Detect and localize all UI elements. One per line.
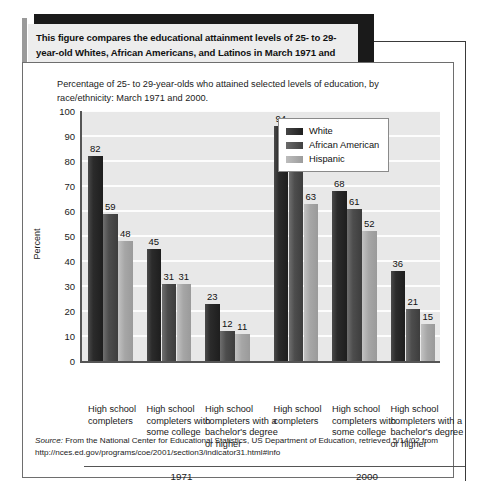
legend-label-hispanic: Hispanic <box>309 154 345 164</box>
year-rule-1971 <box>84 466 279 467</box>
bar-value-hispanic-3: 63 <box>298 191 325 202</box>
legend-item-african-american: African American <box>286 138 379 152</box>
y-tick-20: 20 <box>64 306 75 317</box>
year-rule-2000 <box>270 466 465 467</box>
chart-legend: White African American Hispanic <box>278 118 389 172</box>
y-tick-50: 50 <box>64 231 75 242</box>
bar-white-0 <box>88 156 103 361</box>
legend-swatch-icon-african-american <box>286 142 303 149</box>
legend-item-hispanic: Hispanic <box>286 152 379 166</box>
legend-item-white: White <box>286 124 379 138</box>
source-text: From the National Center for Educational… <box>35 436 438 457</box>
bar-value-white-5: 36 <box>385 258 412 269</box>
callout-banner: This figure compares the educational att… <box>22 14 374 68</box>
bar-african-1 <box>162 284 177 362</box>
legend-swatch-icon-hispanic <box>286 156 303 163</box>
bar-value-white-2: 23 <box>199 291 226 302</box>
bar-hispanic-5 <box>421 324 436 362</box>
legend-swatch-icon-white <box>286 128 303 135</box>
y-tick-30: 30 <box>64 281 75 292</box>
figure-frame: Percentage of 25- to 29-year-olds who at… <box>22 62 454 478</box>
bar-hispanic-0 <box>118 241 133 361</box>
bar-value-white-4: 68 <box>326 178 353 189</box>
bar-value-hispanic-0: 48 <box>112 228 139 239</box>
x-axis-line <box>80 361 440 363</box>
y-axis-ticks: 1009080706050403020100 <box>51 111 79 361</box>
bar-hispanic-4 <box>362 231 377 361</box>
bar-value-hispanic-5: 15 <box>415 311 442 322</box>
y-tick-60: 60 <box>64 206 75 217</box>
legend-label-african-american: African American <box>309 140 379 150</box>
year-label-1971: 1971 <box>84 471 279 482</box>
bar-hispanic-2 <box>235 334 250 362</box>
y-tick-40: 40 <box>64 256 75 267</box>
bar-white-2 <box>205 304 220 362</box>
bracket-horizontal-line <box>374 41 466 42</box>
bar-white-1 <box>147 249 162 362</box>
bar-value-hispanic-2: 11 <box>229 321 256 332</box>
bar-value-african-0: 59 <box>97 201 124 212</box>
source-citation: Source: From the National Center for Edu… <box>35 435 441 459</box>
bar-value-african-5: 21 <box>400 296 427 307</box>
callout-left-accent <box>22 18 27 64</box>
bar-value-white-0: 82 <box>82 143 109 154</box>
y-tick-10: 10 <box>64 331 75 342</box>
bar-hispanic-1 <box>177 284 192 362</box>
bar-african-2 <box>220 331 235 361</box>
bar-white-5 <box>391 271 406 361</box>
y-tick-100: 100 <box>59 106 75 117</box>
legend-label-white: White <box>309 126 333 136</box>
y-tick-80: 80 <box>64 156 75 167</box>
bar-value-hispanic-4: 52 <box>356 218 383 229</box>
bar-hispanic-3 <box>304 204 319 362</box>
bar-african-3 <box>289 144 304 362</box>
y-tick-90: 90 <box>64 131 75 142</box>
y-axis-label: Percent <box>32 228 42 259</box>
y-tick-0: 0 <box>70 356 75 367</box>
bar-value-white-1: 45 <box>141 236 168 247</box>
plot-container: Percent 1009080706050403020100 825948453… <box>35 111 445 401</box>
bar-african-4 <box>347 209 362 362</box>
year-label-2000: 2000 <box>270 471 465 482</box>
bar-value-african-4: 61 <box>341 196 368 207</box>
source-prefix: Source: <box>35 436 63 445</box>
bar-value-hispanic-1: 31 <box>171 271 198 282</box>
chart-subtitle: Percentage of 25- to 29-year-olds who at… <box>57 77 387 105</box>
y-tick-70: 70 <box>64 181 75 192</box>
bar-white-4 <box>332 191 347 361</box>
